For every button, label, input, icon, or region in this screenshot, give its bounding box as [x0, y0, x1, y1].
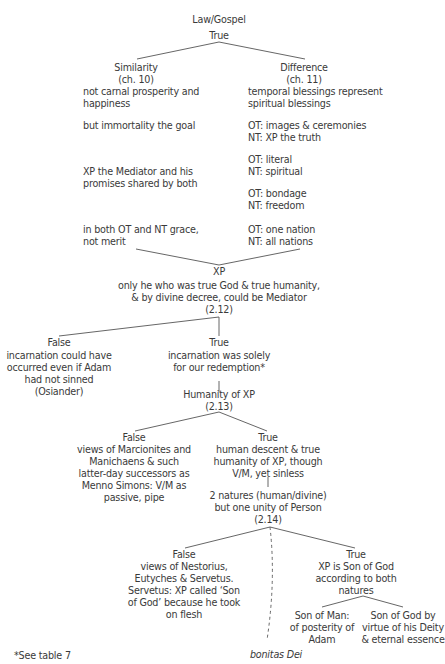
root-title: Law/Gospel — [192, 14, 245, 26]
difference-item: OT: bondageNT: freedom — [248, 188, 306, 212]
humanity-node: Humanity of XP(2.13) — [183, 389, 255, 413]
root-verdict: True — [209, 30, 229, 42]
humanity-true-label: True — [258, 432, 278, 444]
xp-description: only he who was true God & true humanity… — [118, 280, 320, 316]
natures-true-label: True — [346, 549, 366, 561]
similarity-item: in both OT and NT grace,not merit — [83, 224, 199, 248]
humanity-true-text: human descent & truehumanity of XP, thou… — [214, 444, 323, 480]
son-of-god: Son of God byvirtue of his Deity& eterna… — [361, 610, 444, 646]
similarity-heading: Similarity — [114, 62, 157, 74]
incarnation-false-text: incarnation could haveoccurred even if A… — [6, 350, 111, 398]
xp-label: XP — [213, 266, 225, 278]
natures-false-label: False — [172, 549, 195, 561]
natures-false-text: views of Nestorius,Eutyches & Servetus.S… — [128, 561, 240, 621]
incarnation-true-label: True — [209, 337, 229, 349]
difference-chapter: (ch. 11) — [286, 74, 322, 86]
natures-node: 2 natures (human/divine)but one unity of… — [209, 490, 326, 526]
similarity-item: but immortality the goal — [83, 120, 195, 132]
incarnation-true-text: incarnation was solelyfor our redemption… — [168, 350, 270, 374]
incarnation-false-label: False — [47, 337, 70, 349]
natures-true-text: XP is Son of Godaccording to bothnatures — [315, 561, 396, 597]
difference-item: OT: images & ceremoniesNT: XP the truth — [248, 120, 366, 144]
footnote: *See table 7 — [14, 650, 71, 662]
humanity-false-text: views of Marcionites andManichaens & suc… — [77, 444, 191, 504]
difference-item: temporal blessings representspiritual bl… — [248, 86, 383, 110]
difference-item: OT: literalNT: spiritual — [248, 154, 302, 178]
similarity-chapter: (ch. 10) — [118, 74, 154, 86]
difference-item: OT: one nationNT: all nations — [248, 224, 315, 248]
similarity-item: not carnal prosperity andhappiness — [83, 86, 199, 110]
difference-heading: Difference — [280, 62, 328, 74]
similarity-item: XP the Mediator and hispromises shared b… — [83, 166, 197, 190]
son-of-man: Son of Man:of posterity ofAdam — [290, 610, 354, 646]
humanity-false-label: False — [122, 432, 145, 444]
bonitas-dei: bonitas Dei — [250, 649, 302, 661]
